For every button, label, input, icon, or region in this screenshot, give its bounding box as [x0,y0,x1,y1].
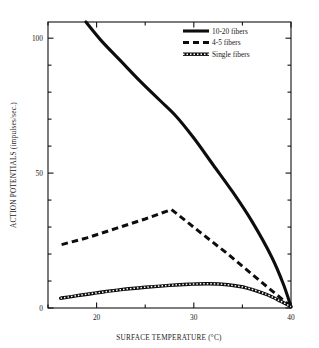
x-tick-label: 40 [287,313,295,322]
y-axis-title: ACTION POTENTIALS (impulses/sec.) [10,102,18,228]
legend-label: 4-5 fibers [212,38,241,47]
axis-ticks [48,22,291,308]
series-line-10-20-fibers [86,22,291,307]
y-tick-label: 0 [39,304,43,313]
legend-item: 4-5 fibers [183,38,241,47]
legend-item: 10-20 fibers [183,27,248,36]
series-solid [86,22,291,307]
action-potentials-line-chart: 203040050100 10-20 fibers4-5 fibersSingl… [0,0,319,348]
x-tick-label: 30 [190,313,198,322]
legend-label: Single fibers [212,50,250,59]
y-tick-label: 50 [36,169,44,178]
series-line-single-fibers [61,284,291,307]
data-series [61,22,291,307]
legend-label: 10-20 fibers [212,27,248,36]
series-line-single-fibers-hatch [61,284,291,307]
legend-item: Single fibers [183,50,250,59]
x-tick-label: 20 [93,313,101,322]
x-axis-title: SURFACE TEMPERATURE (°C) [116,334,222,342]
plot-frame [48,22,291,308]
chart-figure: 203040050100 10-20 fibers4-5 fibersSingl… [0,0,319,348]
chart-legend: 10-20 fibers4-5 fibersSingle fibers [183,27,250,59]
series-hatched [61,284,291,307]
y-tick-label: 100 [32,34,43,43]
